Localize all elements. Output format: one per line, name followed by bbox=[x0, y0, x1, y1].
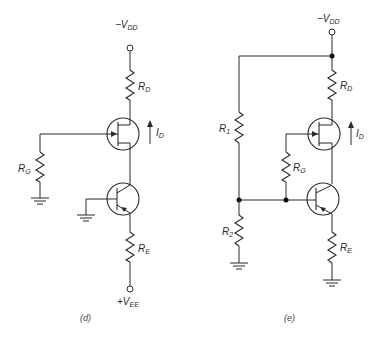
re-label-e: RE bbox=[340, 242, 352, 254]
resistor-rd-e bbox=[328, 70, 336, 100]
resistor-re-d bbox=[126, 232, 134, 262]
ground-icon bbox=[230, 263, 248, 269]
circuit-figure: −VDD RD ID RG bbox=[0, 0, 373, 346]
jfet-d bbox=[40, 118, 139, 183]
rd-label-d: RD bbox=[138, 81, 150, 93]
bjt-e bbox=[307, 183, 339, 232]
rd-label-e: RD bbox=[340, 80, 352, 92]
current-arrow-id-e bbox=[348, 121, 354, 145]
ground-icon bbox=[31, 198, 49, 204]
r1-label-e: R1 bbox=[219, 123, 230, 135]
caption-e: (e) bbox=[284, 313, 295, 323]
rg-label-e: RG bbox=[293, 162, 306, 174]
junction-dot bbox=[284, 198, 289, 203]
vdd-terminal-e bbox=[329, 29, 335, 35]
resistor-rg-e bbox=[282, 152, 290, 182]
bjt-d bbox=[86, 183, 139, 232]
ground-icon bbox=[77, 215, 95, 221]
resistor-r1-e bbox=[235, 112, 243, 143]
caption-d: (d) bbox=[80, 313, 91, 323]
r2-label-e: R2 bbox=[222, 226, 233, 238]
id-label-d: ID bbox=[156, 127, 164, 139]
vdd-label-e: −VDD bbox=[317, 13, 340, 25]
resistor-re-e bbox=[328, 232, 336, 263]
ground-icon bbox=[323, 280, 341, 286]
vdd-label-d: −VDD bbox=[115, 19, 138, 31]
re-label-d: RE bbox=[138, 243, 150, 255]
rg-label-d: RG bbox=[18, 163, 31, 175]
resistor-rg-d bbox=[36, 152, 44, 182]
jfet-e bbox=[286, 118, 340, 184]
current-arrow-id-d bbox=[147, 120, 153, 144]
circuit-d: −VDD RD ID RG bbox=[18, 19, 164, 323]
id-label-e: ID bbox=[356, 128, 364, 140]
circuit-e: −VDD R1 RD ID bbox=[219, 13, 364, 323]
vee-label-d: +VEE bbox=[117, 296, 139, 308]
resistor-rd-d bbox=[126, 70, 134, 100]
resistor-r2-e bbox=[235, 215, 243, 246]
vdd-terminal-d bbox=[127, 45, 133, 51]
vee-terminal-d bbox=[127, 286, 133, 292]
